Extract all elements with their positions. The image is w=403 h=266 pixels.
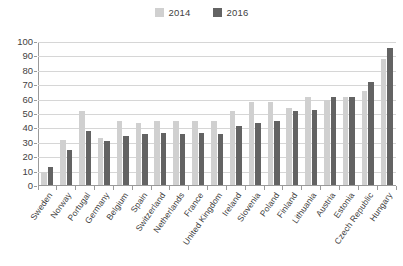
bar-2016[interactable]	[86, 131, 92, 186]
bar-2016[interactable]	[255, 123, 261, 186]
bar-2014[interactable]	[268, 102, 274, 186]
x-axis-tick	[377, 186, 396, 190]
x-axis-tick	[57, 186, 76, 190]
bar-2016[interactable]	[199, 133, 205, 186]
bar-2014[interactable]	[230, 111, 236, 186]
y-axis-tick-label: 60	[22, 95, 33, 105]
bar-2014[interactable]	[60, 140, 66, 186]
bar-2014[interactable]	[343, 97, 349, 186]
bar-2016[interactable]	[48, 167, 54, 186]
y-axis-tick-label: 0	[28, 181, 33, 191]
bar-group[interactable]	[321, 42, 340, 186]
bar-group[interactable]	[95, 42, 114, 186]
x-axis-label-cell: Finland	[283, 191, 302, 263]
x-axis-labels: SwedenNorwayPortugalGermanyBelgiumSpainS…	[38, 191, 396, 263]
bar-2016[interactable]	[67, 150, 73, 186]
y-axis-tick-label: 10	[22, 167, 33, 177]
bar-group[interactable]	[189, 42, 208, 186]
bar-2016[interactable]	[236, 126, 242, 186]
bar-group[interactable]	[38, 42, 57, 186]
y-axis-tick	[34, 56, 37, 57]
legend-label-2014: 2014	[169, 8, 191, 18]
bar-group[interactable]	[377, 42, 396, 186]
bar-2016[interactable]	[312, 110, 318, 186]
bar-group[interactable]	[76, 42, 95, 186]
bar-group[interactable]	[113, 42, 132, 186]
x-axis-tick	[170, 186, 189, 190]
x-axis-tick	[151, 186, 170, 190]
bar-group[interactable]	[208, 42, 227, 186]
bar-2016[interactable]	[274, 121, 280, 186]
y-axis-tick-label: 80	[22, 66, 33, 76]
y-axis-tick	[34, 85, 37, 86]
x-axis-tick	[226, 186, 245, 190]
x-axis-tick	[358, 186, 377, 190]
bar-group[interactable]	[264, 42, 283, 186]
bar-2016[interactable]	[180, 134, 186, 186]
x-axis-label-cell: Hungary	[377, 191, 396, 263]
y-axis-tick-label: 30	[22, 138, 33, 148]
bar-2014[interactable]	[249, 102, 255, 186]
bar-2014[interactable]	[41, 172, 47, 186]
x-axis-label-cell: Czech Republic	[358, 191, 377, 263]
x-axis-label-cell: Netherlands	[170, 191, 189, 263]
bar-2016[interactable]	[293, 111, 299, 186]
bar-group[interactable]	[226, 42, 245, 186]
bar-group[interactable]	[132, 42, 151, 186]
y-axis-tick	[34, 100, 37, 101]
bar-group[interactable]	[340, 42, 359, 186]
legend-swatch-2016	[213, 8, 222, 17]
bar-2014[interactable]	[173, 121, 179, 186]
bar-2014[interactable]	[286, 108, 292, 186]
y-axis-tick-label: 40	[22, 124, 33, 134]
x-axis-label-cell: Austria	[321, 191, 340, 263]
bar-2016[interactable]	[104, 141, 110, 186]
bar-2016[interactable]	[142, 134, 148, 186]
bar-2016[interactable]	[387, 48, 393, 186]
x-axis-tick	[245, 186, 264, 190]
bar-2016[interactable]	[349, 97, 355, 186]
bar-2014[interactable]	[192, 121, 198, 186]
chart-legend: 2014 2016	[0, 8, 403, 18]
y-axis-tick-label: 90	[22, 52, 33, 62]
x-axis-label-cell: Belgium	[113, 191, 132, 263]
legend-item-2016[interactable]: 2016	[213, 8, 249, 18]
x-axis-tick	[113, 186, 132, 190]
bar-2014[interactable]	[98, 138, 104, 186]
x-axis-tick	[189, 186, 208, 190]
x-axis-label-cell: United Kingdom	[208, 191, 227, 263]
y-axis-tick-label: 20	[22, 152, 33, 162]
bar-2016[interactable]	[161, 133, 167, 186]
bar-2014[interactable]	[154, 121, 160, 186]
x-axis-label-cell: Slovenia	[245, 191, 264, 263]
y-axis-tick-label: 100	[17, 37, 33, 47]
x-axis-label-cell: Poland	[264, 191, 283, 263]
bar-group[interactable]	[151, 42, 170, 186]
bar-group[interactable]	[57, 42, 76, 186]
bar-2014[interactable]	[381, 59, 387, 186]
x-axis-label-cell: Lithuania	[302, 191, 321, 263]
y-axis-tick-label: 70	[22, 80, 33, 90]
x-axis-tick	[283, 186, 302, 190]
bar-2016[interactable]	[368, 82, 374, 186]
bar-2014[interactable]	[79, 111, 85, 186]
bar-2014[interactable]	[117, 121, 123, 186]
legend-swatch-2014	[155, 8, 164, 17]
legend-item-2014[interactable]: 2014	[155, 8, 191, 18]
bar-2016[interactable]	[331, 97, 337, 186]
x-axis-tick	[302, 186, 321, 190]
bar-group[interactable]	[245, 42, 264, 186]
bar-group[interactable]	[302, 42, 321, 186]
bar-group[interactable]	[170, 42, 189, 186]
bar-2014[interactable]	[324, 100, 330, 186]
x-axis-label-cell: Germany	[95, 191, 114, 263]
bar-group[interactable]	[283, 42, 302, 186]
bar-2014[interactable]	[362, 91, 368, 186]
bar-2016[interactable]	[123, 136, 129, 186]
bar-group[interactable]	[358, 42, 377, 186]
bar-2014[interactable]	[305, 97, 311, 186]
bar-2016[interactable]	[218, 134, 224, 186]
bar-2014[interactable]	[211, 121, 217, 186]
y-axis-tick	[34, 157, 37, 158]
bar-2014[interactable]	[136, 123, 142, 186]
